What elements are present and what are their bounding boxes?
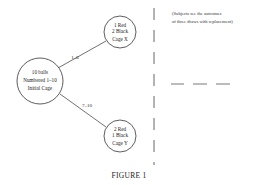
note-line-2: of three draws with replacement): [172, 19, 233, 24]
cage-y-node: 2 Red 1 Black Cage Y: [104, 120, 136, 152]
initial-cage-line-1: 10 balls: [32, 69, 48, 75]
initial-cage-line-2: Numbered 1–10: [23, 77, 57, 83]
edge-label-cage-x: 1–6: [71, 55, 79, 60]
cage-y-line-3: Cage Y: [112, 140, 128, 146]
initial-cage-node: 10 balls Numbered 1–10 Initial Cage: [17, 58, 63, 104]
cage-y-line-2: 1 Black: [112, 132, 128, 138]
figure-1-diagram: 1–6 7–10 10 balls Numbered 1–10 Initial …: [0, 0, 257, 185]
cage-x-line-3: Cage X: [112, 36, 128, 42]
cage-x-node: 1 Red 2 Black Cage X: [104, 16, 136, 48]
initial-cage-line-3: Initial Cage: [28, 85, 53, 91]
edge-to-cage-y: [60, 94, 106, 127]
cage-x-line-2: 2 Black: [112, 28, 128, 34]
edge-label-cage-y: 7–10: [82, 103, 93, 108]
note-line-1: (Subjects see the outcomes: [172, 11, 222, 16]
figure-caption: FIGURE 1: [111, 171, 146, 180]
edge-to-cage-x: [58, 41, 106, 68]
